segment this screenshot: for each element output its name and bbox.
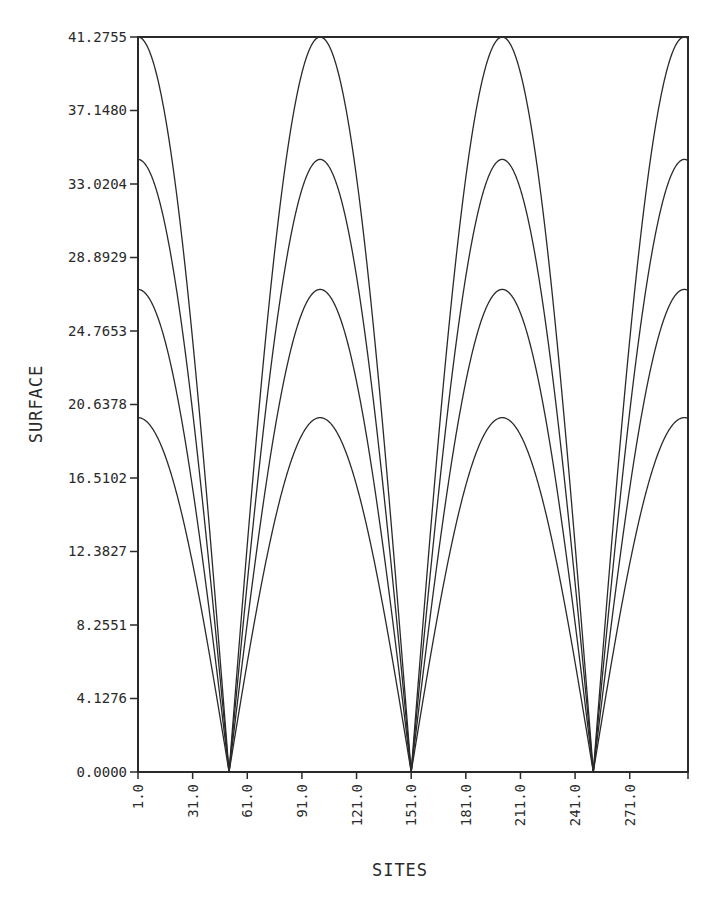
y-tick-label: 16.5102 <box>68 470 127 486</box>
x-tick-label: 181.0 <box>458 784 474 826</box>
series-line-4 <box>138 418 688 772</box>
x-tick-label: 1.0 <box>130 784 146 809</box>
x-tick-label: 151.0 <box>403 784 419 826</box>
y-tick-label: 8.2551 <box>76 617 127 633</box>
x-tick-label: 271.0 <box>622 784 638 826</box>
y-tick-label: 12.3827 <box>68 543 127 559</box>
x-axis-ticks: 1.031.061.091.0121.0151.0181.0211.0241.0… <box>130 772 688 826</box>
y-tick-label: 24.7653 <box>68 323 127 339</box>
series-line-1 <box>138 37 688 772</box>
y-axis-ticks: 0.00004.12768.255112.382716.510220.63782… <box>68 29 138 780</box>
x-tick-label: 211.0 <box>512 784 528 826</box>
x-tick-label: 91.0 <box>294 784 310 818</box>
y-axis-title: SURFACE <box>26 365 46 444</box>
y-tick-label: 33.0204 <box>68 176 127 192</box>
y-tick-label: 28.8929 <box>68 249 127 265</box>
x-axis-title: SITES <box>372 860 428 880</box>
x-tick-label: 31.0 <box>185 784 201 818</box>
y-tick-label: 4.1276 <box>76 690 127 706</box>
series-line-2 <box>138 159 688 772</box>
x-tick-label: 121.0 <box>349 784 365 826</box>
y-tick-label: 41.2755 <box>68 29 127 45</box>
x-tick-label: 61.0 <box>239 784 255 818</box>
surface-vs-sites-chart: 0.00004.12768.255112.382716.510220.63782… <box>0 0 719 908</box>
curves <box>138 37 688 772</box>
x-tick-label: 241.0 <box>567 784 583 826</box>
y-tick-label: 0.0000 <box>76 764 127 780</box>
y-tick-label: 20.6378 <box>68 396 127 412</box>
y-tick-label: 37.1480 <box>68 102 127 118</box>
